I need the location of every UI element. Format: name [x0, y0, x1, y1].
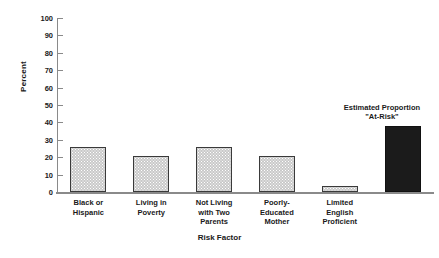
- bar: [70, 147, 106, 192]
- y-axis-tick-label: 100: [29, 14, 53, 23]
- y-axis-tick-label: 80: [29, 48, 53, 57]
- y-axis-tick-label: 90: [29, 31, 53, 40]
- x-axis-category-label: Living in Poverty: [120, 198, 183, 217]
- x-axis-category-label: Limited English Proficient: [308, 198, 371, 227]
- x-axis-category-label: Black or Hispanic: [57, 198, 120, 217]
- y-axis-tick: [57, 53, 63, 54]
- y-axis-tick-label: 60: [29, 83, 53, 92]
- y-axis-tick: [57, 140, 63, 141]
- y-axis-tick: [57, 157, 63, 158]
- y-axis-tick: [57, 35, 63, 36]
- y-axis-tick: [57, 105, 63, 106]
- bar: [259, 156, 295, 192]
- bar: [322, 186, 358, 192]
- y-axis-tick: [57, 175, 63, 176]
- y-axis-tick-label: 20: [29, 153, 53, 162]
- bar: [385, 126, 421, 192]
- x-axis-title: Risk Factor: [0, 233, 439, 242]
- y-axis-tick-label: 0: [29, 188, 53, 197]
- bar-annotation: Estimated Proportion "At-Risk": [327, 103, 437, 122]
- bar: [196, 147, 232, 192]
- y-axis-title: Percent: [19, 42, 28, 112]
- y-axis-tick: [57, 192, 63, 193]
- y-axis-tick: [57, 88, 63, 89]
- x-axis-category-label: Poorly- Educated Mother: [246, 198, 309, 227]
- y-axis-tick: [57, 18, 63, 19]
- bar-chart: Percent 1009080706050403020100 Black or …: [0, 0, 439, 258]
- bar: [133, 156, 169, 192]
- x-axis-category-label: Not Living with Two Parents: [183, 198, 246, 227]
- y-axis-tick-label: 50: [29, 101, 53, 110]
- y-axis-tick-label: 40: [29, 118, 53, 127]
- y-axis-tick: [57, 122, 63, 123]
- y-axis-tick: [57, 70, 63, 71]
- x-axis-line: [56, 192, 434, 194]
- y-axis-tick-label: 10: [29, 170, 53, 179]
- y-axis-tick-label: 70: [29, 66, 53, 75]
- y-axis-tick-label: 30: [29, 135, 53, 144]
